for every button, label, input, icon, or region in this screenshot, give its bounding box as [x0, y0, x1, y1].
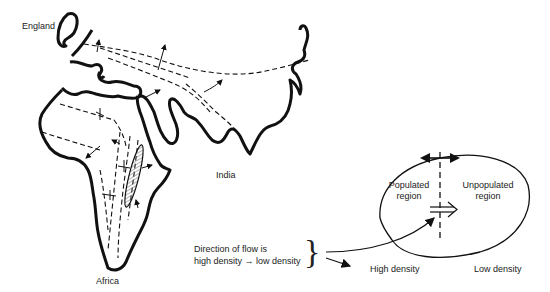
high-density-label: High density [370, 264, 420, 275]
england-outline [58, 13, 92, 56]
populated-region-label: Populated region [382, 180, 436, 202]
unpopulated-region-label: Unpopulated region [456, 180, 520, 202]
route-ticks [96, 108, 130, 200]
label-india: India [216, 170, 236, 181]
label-england: England [22, 21, 55, 32]
migration-diagram: England India Africa Direction of flow i… [0, 0, 550, 292]
curved-pointer-arrow [326, 218, 434, 252]
high-density-arrow [326, 258, 350, 266]
populated-line2: region [382, 191, 436, 202]
flow-direction-arrow [430, 202, 457, 217]
unpopulated-line2: region [456, 191, 520, 202]
brace: } [304, 234, 320, 270]
map-drawing [0, 0, 550, 292]
africa-outline [40, 90, 170, 270]
region-ellipse [380, 152, 529, 257]
populated-line1: Populated [382, 180, 436, 191]
migration-routes [42, 44, 310, 258]
flow-caption-line2: high density → low density [194, 256, 301, 267]
low-density-label: Low density [474, 264, 522, 275]
unpopulated-line1: Unpopulated [456, 180, 520, 191]
flow-caption-line1: Direction of flow is [194, 244, 267, 255]
label-africa: Africa [96, 276, 119, 287]
